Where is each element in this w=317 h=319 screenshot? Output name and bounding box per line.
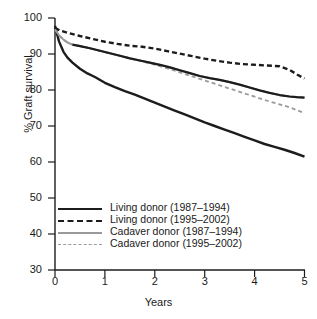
y-tick-label: 60 — [12, 155, 42, 167]
series-line-4 — [72, 45, 304, 98]
x-tick-label: 0 — [45, 275, 65, 287]
x-axis-label: Years — [0, 296, 317, 308]
x-tick-label: 4 — [245, 275, 265, 287]
y-tick-label: 50 — [12, 191, 42, 203]
y-tick-label: 30 — [12, 263, 42, 275]
legend-line-sample — [58, 208, 102, 210]
y-tick-label: 80 — [12, 83, 42, 95]
legend-label: Cadaver donor (1987–1994) — [110, 225, 242, 237]
y-tick-label: 90 — [12, 47, 42, 59]
data-series-layer — [55, 26, 305, 157]
x-tick-label: 3 — [195, 275, 215, 287]
legend-line-sample — [58, 232, 102, 234]
legend-line-sample — [58, 220, 102, 222]
x-axis-ticks — [55, 270, 305, 277]
y-tick-label: 70 — [12, 119, 42, 131]
plot-area — [0, 0, 317, 319]
legend-line-sample — [58, 244, 102, 245]
series-line-2 — [55, 30, 305, 98]
legend-label: Living donor (1995–2002) — [110, 213, 230, 225]
x-tick-label: 2 — [145, 275, 165, 287]
x-tick-label: 5 — [295, 275, 315, 287]
legend-label: Cadaver donor (1995–2002) — [110, 237, 242, 249]
y-axis-ticks — [48, 18, 55, 270]
x-tick-label: 1 — [95, 275, 115, 287]
legend-label: Living donor (1987–1994) — [110, 201, 230, 213]
graft-survival-chart: % Graft survival Years 30405060708090100… — [0, 0, 317, 319]
y-tick-label: 100 — [12, 11, 42, 23]
y-tick-label: 40 — [12, 227, 42, 239]
